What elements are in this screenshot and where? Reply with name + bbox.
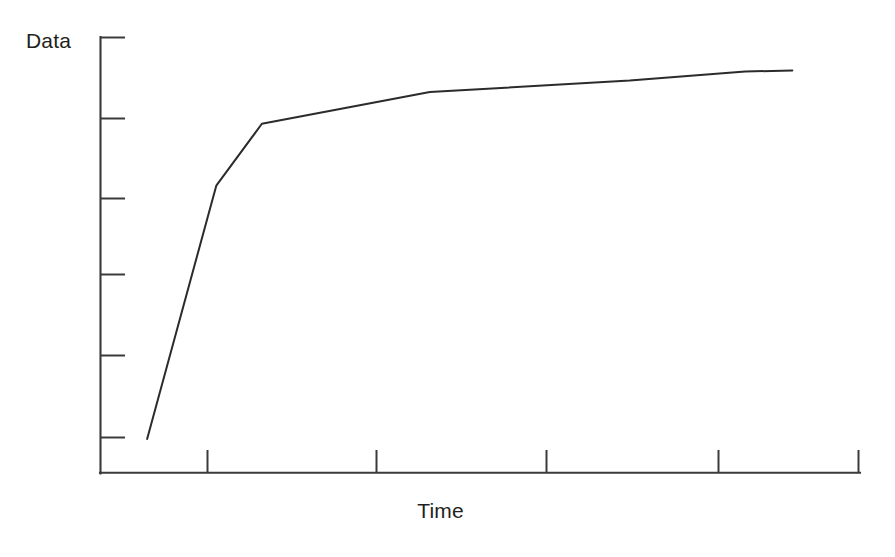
y-axis-label: Data bbox=[26, 30, 71, 51]
x-axis-label-wrapper: Time bbox=[0, 500, 895, 521]
y-axis-ticks bbox=[101, 38, 125, 438]
chart-figure: Data Time bbox=[0, 0, 895, 557]
axes-group bbox=[100, 37, 860, 474]
x-axis-label: Time bbox=[417, 500, 464, 521]
x-axis-ticks bbox=[208, 450, 859, 472]
data-series-line bbox=[147, 71, 792, 439]
line-chart-canvas bbox=[0, 0, 895, 557]
